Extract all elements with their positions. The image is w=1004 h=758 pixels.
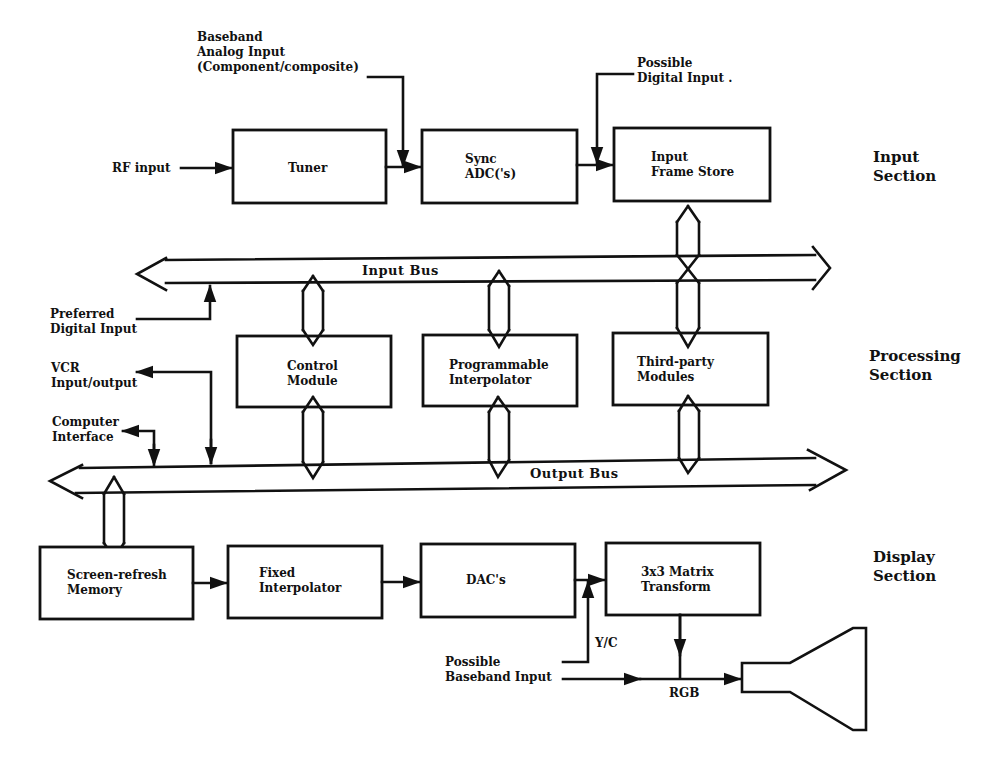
output-bus-label: Output Bus — [530, 466, 619, 481]
programmable-interpolator-label: Programmable Interpolator — [449, 358, 549, 388]
rgb-label: RGB — [669, 686, 699, 701]
third-party-modules-label: Third-party Modules — [637, 355, 714, 385]
programmable-interpolator-output-bus-link — [489, 397, 509, 477]
output-bus — [50, 450, 846, 498]
sync-adc-label: Sync ADC('s) — [465, 152, 516, 182]
dacs-label: DAC's — [466, 573, 506, 588]
crt-monitor-icon — [742, 628, 866, 730]
processing-section-label: Processing Section — [869, 347, 961, 385]
computer-interface-label: Computer Interface — [52, 415, 119, 445]
preferred-digital-input-label: Preferred Digital Input — [50, 307, 137, 337]
display-section-label: Display Section — [873, 548, 936, 586]
input-frame-store-label: Input Frame Store — [651, 150, 734, 180]
vcr-io-label: VCR Input/output — [51, 361, 137, 391]
rf-input-label: RF input — [112, 161, 171, 176]
vcr-io-arrow — [137, 372, 211, 463]
possible-baseband-input-label: Possible Baseband Input — [445, 655, 552, 685]
screen-refresh-memory-label: Screen-refresh Memory — [67, 568, 167, 598]
control-module-label: Control Module — [287, 359, 338, 389]
input-bus — [137, 247, 830, 290]
yc-label: Y/C — [595, 636, 618, 651]
possible-digital-input-label: Possible Digital Input . — [637, 56, 732, 86]
input-section-label: Input Section — [873, 148, 936, 186]
matrix-transform-label: 3x3 Matrix Transform — [641, 565, 714, 595]
system-block-diagram: Input Section Processing Section Display… — [0, 0, 1004, 758]
tuner-label: Tuner — [288, 161, 327, 176]
frame-store-bus-link — [677, 206, 699, 283]
fixed-interpolator-label: Fixed Interpolator — [259, 566, 341, 596]
third-party-modules-output-bus-link — [679, 396, 699, 473]
preferred-digital-input-arrow — [137, 286, 210, 319]
computer-interface-arrow — [123, 431, 154, 462]
input-bus-label: Input Bus — [362, 263, 439, 278]
baseband-analog-input-label: Baseband Analog Input (Component/composi… — [197, 30, 359, 75]
